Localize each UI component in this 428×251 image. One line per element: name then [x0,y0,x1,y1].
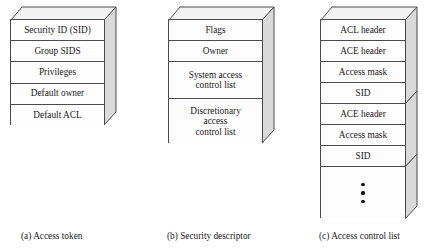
security-structures-figure: Security ID (SID) Group SIDS Privileges … [0,0,428,251]
table-row: Privileges [11,62,104,83]
access-token-side-face [103,6,119,132]
row-label: SID [356,151,371,161]
row-label: Security ID (SID) [24,25,91,35]
table-row: Default ACL [11,105,104,126]
row-label: Discretionary access control list [190,106,241,137]
table-row: Access mask [321,125,405,146]
row-label: Privileges [39,67,76,77]
row-label: System access control list [189,70,242,91]
ellipsis-dot-icon [361,200,364,203]
row-label: ACE header [340,109,386,119]
table-row: ACE header [321,104,405,125]
table-row: ACL header [321,20,405,41]
panel-access-token: Security ID (SID) Group SIDS Privileges … [10,6,130,236]
row-label: Default owner [31,88,84,98]
table-row: Discretionary access control list [169,99,262,144]
table-row: Access mask [321,62,405,83]
row-label: Access mask [339,130,387,140]
table-row: Flags [169,20,262,41]
access-control-list-side-face [404,6,422,221]
table-row: ACE header [321,41,405,62]
table-row-ellipsis [321,167,405,219]
panel-caption: (a) Access token [21,231,82,241]
table-row: Owner [169,41,262,62]
ellipsis-dot-icon [361,191,364,194]
panel-caption: (b) Security descriptor [167,231,251,241]
access-token-stack: Security ID (SID) Group SIDS Privileges … [10,19,105,125]
row-label: ACL header [340,25,385,35]
row-label: Access mask [339,67,387,77]
security-descriptor-stack: Flags Owner System access control list D… [168,19,263,143]
access-control-list-stack: ACL header ACE header Access mask SID AC… [320,19,406,218]
table-row: Group SIDS [11,41,104,62]
security-descriptor-side-face [261,6,277,150]
table-row: Security ID (SID) [11,20,104,41]
row-label: Flags [205,25,225,35]
ellipsis-dot-icon [361,183,364,186]
row-label: Group SIDS [34,46,80,56]
table-row: SID [321,146,405,167]
table-row: SID [321,83,405,104]
row-label: Default ACL [33,110,81,120]
panel-security-descriptor: Flags Owner System access control list D… [168,6,298,236]
row-label: Owner [203,46,228,56]
row-label: SID [356,88,371,98]
table-row: Default owner [11,84,104,105]
table-row: System access control list [169,62,262,99]
row-label: ACE header [340,46,386,56]
panel-caption: (c) Access control list [319,231,400,241]
panel-access-control-list: ACL header ACE header Access mask SID AC… [320,6,428,236]
